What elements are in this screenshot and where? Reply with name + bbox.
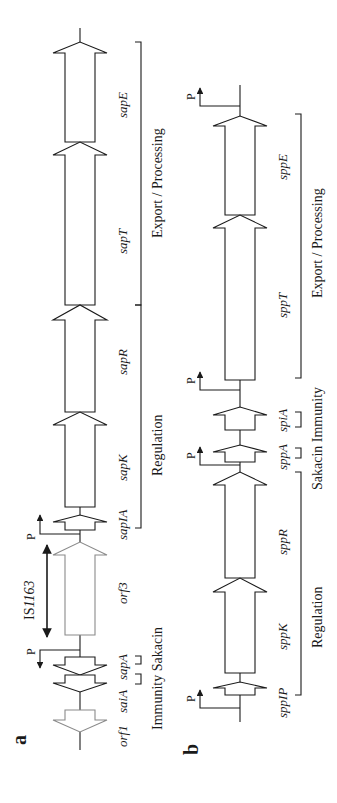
group-label-regulation: Regulation xyxy=(310,587,325,648)
gene-arrow-orf3 xyxy=(53,542,107,635)
is-element-label: IS1163 xyxy=(22,581,37,620)
bracket-export-processing xyxy=(135,42,141,305)
bracket-export-processing xyxy=(295,114,301,378)
bracket-sakacin xyxy=(135,656,141,664)
promoter-label: P xyxy=(184,695,198,702)
gene-arrow-sppK xyxy=(213,578,267,673)
gene-arrow-sapK xyxy=(53,412,107,507)
promoter-label: P xyxy=(184,452,198,459)
gene-label-sppK: sppK xyxy=(275,622,290,650)
gene-label-sppE: sppE xyxy=(275,154,290,180)
gene-label-sapE: sapE xyxy=(115,92,130,118)
promoter-label: P xyxy=(184,377,198,384)
gene-arrow-sppE xyxy=(213,116,267,215)
bracket-regulation xyxy=(135,305,141,528)
gene-label-sapIA: sapIA xyxy=(115,510,130,540)
gene-label-sppA: sppA xyxy=(275,444,290,470)
bracket-immunity xyxy=(135,674,141,684)
gene-label-sapK: sapK xyxy=(115,453,130,481)
gene-arrow-sppT xyxy=(213,215,267,380)
gene-arrow-orf1 xyxy=(53,710,107,732)
gene-arrow-sapA xyxy=(53,657,107,675)
promoter-label: P xyxy=(184,93,198,100)
gene-label-sppT: sppT xyxy=(275,292,290,318)
gene-label-orf3: orf3 xyxy=(115,582,130,604)
gene-cluster-diagram: a P P IS1163 sapE sapT sapR sapK sapIA o… xyxy=(0,0,337,803)
bracket-sakacin xyxy=(295,448,301,458)
gene-arrow-sppA xyxy=(213,445,267,462)
gene-arrow-sapT xyxy=(53,142,107,305)
group-label-sakacin-immunity: Sakacin Immunity xyxy=(310,387,325,490)
group-label-regulation: Regulation xyxy=(150,415,165,476)
panel-label-b: b xyxy=(180,744,202,755)
gene-arrow-saiA xyxy=(53,675,107,692)
gene-arrow-sppR xyxy=(213,472,267,578)
promoter-label: P xyxy=(24,533,38,540)
gene-label-sppIP: sppIP xyxy=(275,688,290,718)
gene-arrow-sapE xyxy=(53,42,107,142)
bracket-regulation xyxy=(295,472,301,695)
promoter-label: P xyxy=(24,648,38,655)
panel-a xyxy=(40,28,141,750)
group-label-immunity-sakacin: Immunity Sakacin xyxy=(150,627,165,730)
gene-label-orf1: orf1 xyxy=(115,725,130,747)
panel-label-a: a xyxy=(8,735,30,745)
gene-arrow-spiA xyxy=(213,407,267,430)
gene-label-sapT: sapT xyxy=(115,228,130,254)
gene-arrow-sapIA xyxy=(53,515,107,530)
gene-label-sapA: sapA xyxy=(115,654,130,680)
gene-label-saiA: saiA xyxy=(115,690,130,713)
gene-arrow-sppIP xyxy=(213,682,267,695)
gene-label-sapR: sapR xyxy=(115,349,130,375)
promoter-arrow xyxy=(200,88,240,106)
group-label-export-processing: Export / Processing xyxy=(150,128,165,238)
gene-label-sppR: sppR xyxy=(275,529,290,555)
gene-arrow-sapR xyxy=(53,305,107,412)
gene-label-spiA: spiA xyxy=(275,409,290,432)
bracket-immunity xyxy=(295,412,301,427)
group-label-export-processing: Export / Processing xyxy=(310,188,325,298)
